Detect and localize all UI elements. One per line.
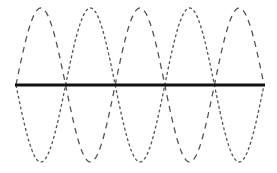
standing-wave-diagram bbox=[0, 0, 277, 173]
